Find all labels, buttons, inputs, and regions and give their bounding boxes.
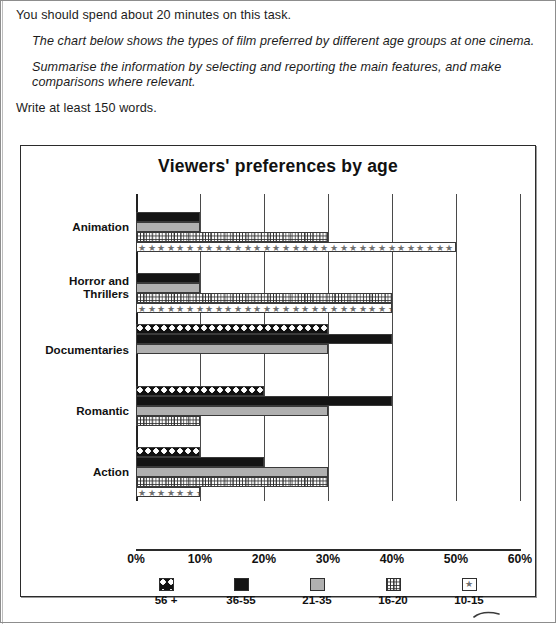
x-tick-50: 50% [444, 552, 468, 566]
bar-animation-10-15: ★★★★★★★★★★★★★★★★★★★★★★★★★★★★★★★★★★★★★★ [136, 242, 456, 252]
bar-group [136, 378, 520, 439]
star-fill-icon: ★★★★★★★★★★★★★★★★★★★★★★★★★★★★★★★★★★★★★★ [137, 243, 455, 251]
pencil-mark-icon [473, 609, 501, 619]
bar-romantic-21-35 [136, 406, 328, 416]
instruction-time: You should spend about 20 minutes on thi… [16, 8, 536, 23]
bar-group: ★★★★★★★★★★★★★★★★★★★★★★★★★★★★★★★★★★★★★★ [136, 194, 520, 255]
instruction-summarise: Summarise the information by selecting a… [16, 60, 536, 90]
star-fill-icon: ★★★★★★★★ [137, 488, 199, 496]
legend-swatch-gray-icon [310, 578, 325, 591]
bar-action-36-55 [136, 457, 264, 467]
bar-horror-and-thrillers-16-20 [136, 293, 392, 303]
legend-swatch-dots-icon [159, 578, 174, 591]
bar-horror-and-thrillers-36-55 [136, 273, 200, 283]
x-tick-20: 20% [252, 552, 276, 566]
task-instructions: You should spend about 20 minutes on thi… [16, 8, 536, 116]
bar-action-56+ [136, 447, 200, 457]
legend-swatch-star-icon: ★ [462, 578, 477, 591]
bar-romantic-36-55 [136, 396, 392, 406]
x-tick-60: 60% [508, 552, 532, 566]
bar-animation-36-55 [136, 212, 200, 222]
bar-action-21-35 [136, 467, 328, 477]
x-tick-10: 10% [188, 552, 212, 566]
bar-documentaries-21-35 [136, 344, 328, 354]
gridline-60 [520, 194, 521, 501]
bar-action-10-15: ★★★★★★★★ [136, 487, 200, 497]
x-tick-40: 40% [380, 552, 404, 566]
legend-label: 10-15 [424, 594, 514, 606]
x-tick-0: 0% [127, 552, 145, 566]
instruction-chart-desc: The chart below shows the types of film … [16, 34, 536, 49]
bar-documentaries-36-55 [136, 334, 392, 344]
bar-romantic-16-20 [136, 416, 200, 426]
chart-legend: 56 +36-5521-3516-20★10-15 [21, 578, 535, 618]
category-label-documentaries: Documentaries [21, 344, 129, 357]
bar-action-16-20 [136, 477, 328, 487]
bar-group: ★★★★★★★★ [136, 440, 520, 501]
legend-item-10-15[interactable]: ★10-15 [424, 578, 514, 606]
bar-group [136, 317, 520, 378]
star-fill-icon: ★★★★★★★★★★★★★★★★★★★★★★★★★★★★★★ [137, 304, 391, 312]
x-axis-line [136, 549, 521, 551]
category-label-action: Action [21, 466, 129, 479]
x-tick-30: 30% [316, 552, 340, 566]
bar-documentaries-56+ [136, 324, 328, 334]
bar-group: ★★★★★★★★★★★★★★★★★★★★★★★★★★★★★★ [136, 255, 520, 316]
bar-animation-21-35 [136, 222, 200, 232]
bar-horror-and-thrillers-21-35 [136, 283, 200, 293]
instruction-wordcount: Write at least 150 words. [16, 101, 536, 116]
category-label-animation: Animation [21, 221, 129, 234]
category-label-romantic: Romantic [21, 405, 129, 418]
legend-swatch-black-icon [234, 578, 249, 591]
bar-horror-and-thrillers-10-15: ★★★★★★★★★★★★★★★★★★★★★★★★★★★★★★ [136, 303, 392, 313]
bar-animation-16-20 [136, 232, 328, 242]
chart-container: Viewers' preferences by age ★★★★★★★★★★★★… [20, 145, 536, 597]
bar-romantic-56+ [136, 386, 264, 396]
plot-area: ★★★★★★★★★★★★★★★★★★★★★★★★★★★★★★★★★★★★★★★★… [136, 194, 520, 501]
star-icon: ★ [463, 579, 476, 590]
chart-title: Viewers' preferences by age [21, 156, 535, 177]
legend-swatch-grid-icon [386, 578, 401, 591]
category-label-horror-and-thrillers: Horror andThrillers [21, 275, 129, 300]
